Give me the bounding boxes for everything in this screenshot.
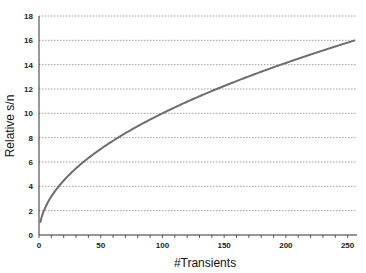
y-axis-title: Relative s/n <box>3 95 17 158</box>
y-tick-label: 16 <box>24 36 33 45</box>
y-tick-label: 12 <box>24 85 33 94</box>
y-tick-label: 14 <box>24 61 33 70</box>
gridlines <box>39 16 357 211</box>
x-tick-label: 250 <box>341 241 355 250</box>
x-tick-label: 150 <box>217 241 231 250</box>
y-tick-label: 0 <box>29 231 34 240</box>
x-tick-label: 0 <box>37 241 42 250</box>
y-axis-ticks: 024681012141618 <box>24 12 33 240</box>
x-axis-ticks: 050100150200250 <box>37 235 355 250</box>
x-axis-title: #Transients <box>174 256 236 270</box>
y-tick-label: 4 <box>29 182 34 191</box>
y-tick-label: 18 <box>24 12 33 21</box>
y-tick-label: 6 <box>29 158 34 167</box>
chart: 024681012141618 050100150200250 #Transie… <box>0 0 366 273</box>
x-tick-label: 200 <box>279 241 293 250</box>
y-tick-label: 8 <box>29 134 34 143</box>
x-tick-label: 100 <box>156 241 170 250</box>
y-tick-label: 10 <box>24 109 33 118</box>
y-tick-label: 2 <box>29 207 34 216</box>
series-line <box>40 40 355 223</box>
x-tick-label: 50 <box>96 241 105 250</box>
